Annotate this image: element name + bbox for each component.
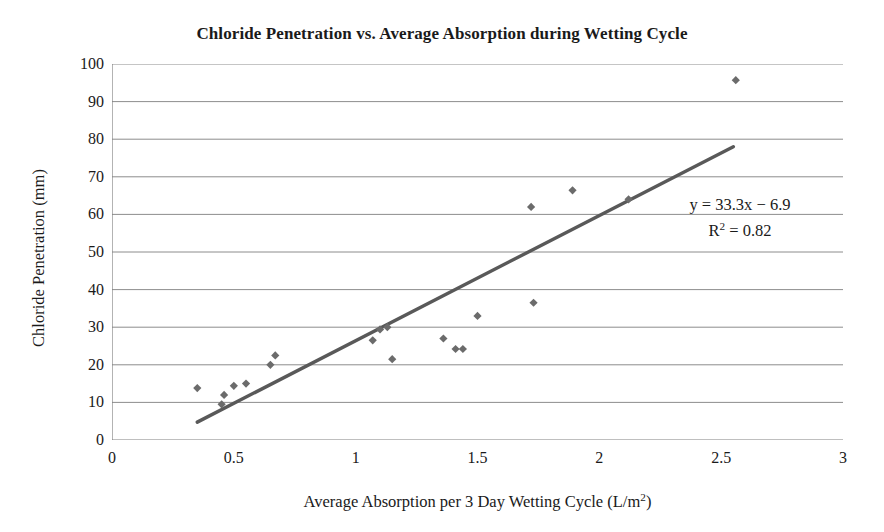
chart-title: Chloride Penetration vs. Average Absorpt… (0, 24, 884, 44)
plot-area (112, 64, 843, 440)
y-axis-tick-label: 100 (50, 56, 104, 72)
x-axis-tick-label: 2.5 (691, 450, 751, 466)
y-axis-tick-label: 90 (50, 94, 104, 110)
data-point (388, 355, 396, 363)
trendline-equation: y = 33.3x − 6.9 (656, 192, 824, 218)
trendline (197, 147, 733, 422)
data-point (220, 391, 228, 399)
data-point (473, 312, 481, 320)
data-point (529, 299, 537, 307)
data-point (369, 336, 377, 344)
x-axis-title-text: Average Absorption per 3 Day Wetting Cyc… (304, 492, 652, 511)
y-axis-tick-label: 30 (50, 319, 104, 335)
x-axis-unit-exponent: 2 (640, 491, 646, 503)
y-axis-tick-label: 80 (50, 131, 104, 147)
x-axis-tick-label: 1.5 (448, 450, 508, 466)
data-point (266, 361, 274, 369)
plot-svg (112, 64, 843, 440)
x-axis-tick-labels: 00.511.522.53 (112, 450, 843, 470)
y-axis-tick-label: 20 (50, 357, 104, 373)
trendline-annotation: y = 33.3x − 6.9 R2 = 0.82 (656, 192, 824, 244)
data-point (439, 334, 447, 342)
y-axis-tick-labels: 0102030405060708090100 (46, 64, 104, 440)
data-point (230, 382, 238, 390)
data-point (568, 186, 576, 194)
trendline-r-squared: R2 = 0.82 (656, 218, 824, 244)
x-axis-tick-label: 0.5 (204, 450, 264, 466)
x-axis-title: Average Absorption per 3 Day Wetting Cyc… (112, 492, 843, 512)
y-axis-tick-label: 10 (50, 394, 104, 410)
r-squared-value: = 0.82 (725, 221, 771, 240)
y-axis-tick-label: 50 (50, 244, 104, 260)
x-axis-tick-label: 0 (82, 450, 142, 466)
data-point (732, 76, 740, 84)
x-axis-tick-label: 1 (326, 450, 386, 466)
y-axis-tick-label: 70 (50, 169, 104, 185)
y-axis-tick-label: 0 (50, 432, 104, 448)
data-point (459, 345, 467, 353)
data-point (451, 345, 459, 353)
y-axis-tick-label: 60 (50, 206, 104, 222)
chart-figure: Chloride Penetration vs. Average Absorpt… (0, 0, 884, 532)
data-point (271, 351, 279, 359)
x-axis-tick-label: 3 (813, 450, 873, 466)
r-squared-base: R (708, 221, 719, 240)
x-axis-tick-label: 2 (569, 450, 629, 466)
y-axis-tick-label: 40 (50, 282, 104, 298)
data-point (242, 380, 250, 388)
data-point (527, 203, 535, 211)
data-point (193, 384, 201, 392)
